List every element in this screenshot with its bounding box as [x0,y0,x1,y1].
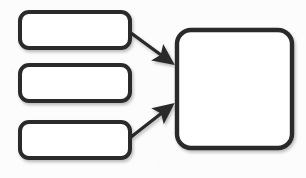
output-box[interactable] [177,30,292,148]
output-box-shape[interactable] [177,30,292,148]
connector-layer [131,33,173,137]
arrow-input-3-to-output[interactable] [131,105,172,137]
diagram-canvas [0,0,306,178]
input-box-1-shape[interactable] [20,12,130,48]
input-box-3[interactable] [20,122,130,158]
input-box-2-shape[interactable] [20,65,130,101]
diagram-svg [0,0,306,178]
input-box-1[interactable] [20,12,130,48]
input-box-3-shape[interactable] [20,122,130,158]
arrow-input-1-to-output[interactable] [131,33,172,63]
input-box-2[interactable] [20,65,130,101]
